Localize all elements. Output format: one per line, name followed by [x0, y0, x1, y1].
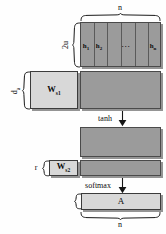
- activation-label-tanh: tanh: [98, 115, 112, 123]
- hidden-state-label-n: hn: [150, 43, 157, 51]
- activation-label-softmax: softmax: [85, 182, 111, 190]
- product-matrix-2: [80, 160, 161, 176]
- hidden-state-label-1: h1: [83, 43, 89, 51]
- column-separators: [81, 23, 160, 66]
- brace-a-left: [74, 193, 81, 210]
- ws1-base: W: [47, 84, 56, 94]
- label-n-bottom: n: [118, 221, 122, 229]
- brace-r: [42, 160, 49, 177]
- brace-n-bottom: [80, 212, 161, 220]
- hidden-state-ellipsis: ···: [122, 44, 131, 51]
- tanh-arrow-icon: [117, 111, 128, 127]
- hidden-state-label-2: h2: [96, 43, 102, 51]
- brace-2u: [72, 22, 80, 68]
- da-sub: a: [15, 88, 21, 90]
- product-matrix-1: [80, 71, 161, 109]
- tanh-output-matrix: [80, 127, 161, 157]
- ws2-sub: s2: [65, 167, 70, 173]
- brace-n-top: [80, 13, 161, 21]
- diagram-canvas: n h1 h2 ··· hn 2u da Ws1: [0, 0, 166, 234]
- brace-da: [22, 71, 30, 111]
- label-n-top: n: [118, 4, 122, 12]
- hn-sub: n: [154, 46, 157, 51]
- label-2u: 2u: [62, 41, 70, 49]
- label-r: r: [35, 164, 38, 172]
- h1-sub: 1: [87, 46, 90, 51]
- ws2-base: W: [57, 161, 66, 171]
- label-da: da: [11, 88, 21, 94]
- da-base: d: [10, 90, 19, 94]
- ws1-sub: s1: [56, 90, 61, 96]
- weight-label-ws2: Ws2: [57, 162, 70, 173]
- softmax-arrow-icon: [117, 178, 128, 194]
- h2-sub: 2: [100, 46, 103, 51]
- weight-label-ws1: Ws1: [47, 85, 60, 96]
- output-label-a: A: [118, 197, 125, 206]
